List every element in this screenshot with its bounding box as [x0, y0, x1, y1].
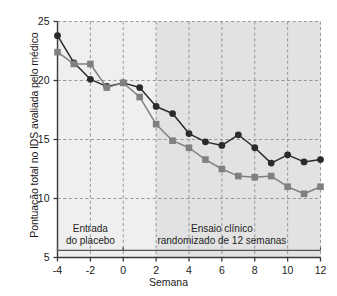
- chart-plot-area: [0, 0, 337, 296]
- data-point-circle: [284, 151, 291, 158]
- data-point-square: [268, 173, 275, 180]
- data-point-circle: [87, 76, 94, 83]
- data-point-square: [251, 174, 258, 181]
- data-point-square: [186, 144, 193, 151]
- data-point-square: [136, 94, 143, 101]
- data-point-square: [284, 183, 291, 190]
- data-point-circle: [136, 84, 143, 91]
- data-point-square: [104, 84, 111, 91]
- data-point-circle: [301, 159, 308, 166]
- data-point-circle: [186, 130, 193, 137]
- data-point-circle: [218, 142, 225, 149]
- data-point-square: [301, 190, 308, 197]
- data-point-circle: [54, 32, 61, 39]
- data-point-circle: [169, 110, 176, 117]
- data-point-circle: [317, 156, 324, 163]
- data-point-square: [120, 80, 127, 87]
- chart-figure: Pontuação total no IDS avaliada pelo méd…: [0, 0, 337, 296]
- data-point-circle: [235, 131, 242, 138]
- data-point-circle: [202, 138, 209, 145]
- data-point-square: [71, 61, 78, 68]
- data-point-square: [54, 49, 61, 56]
- light-band: [58, 22, 157, 258]
- data-point-square: [202, 156, 209, 163]
- data-point-square: [317, 183, 324, 190]
- data-point-circle: [153, 103, 160, 110]
- data-point-square: [87, 61, 94, 68]
- data-point-circle: [251, 144, 258, 151]
- data-point-square: [235, 173, 242, 180]
- data-point-square: [169, 137, 176, 144]
- data-point-circle: [268, 160, 275, 167]
- data-point-square: [219, 166, 226, 173]
- data-point-square: [153, 121, 160, 128]
